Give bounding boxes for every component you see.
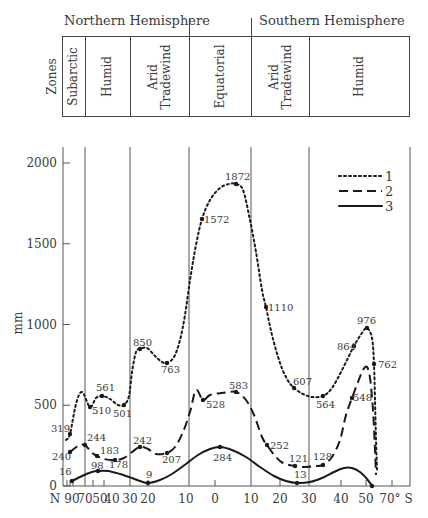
data-point <box>370 484 374 488</box>
x-tick-label: 10 <box>178 492 193 506</box>
data-value-label: 1872 <box>225 171 250 182</box>
data-value-label: 252 <box>270 440 289 451</box>
data-value-label: 244 <box>87 432 106 443</box>
data-point <box>146 481 150 485</box>
x-tick-label: 20 <box>272 492 287 506</box>
data-value-label: 501 <box>113 408 132 419</box>
x-tick-label: N <box>50 492 61 506</box>
data-point <box>293 464 297 468</box>
legend-label-1: 1 <box>385 169 393 184</box>
x-tick-label: 40 <box>333 492 348 506</box>
data-value-label: 183 <box>100 445 119 456</box>
data-value-label: 121 <box>289 453 308 464</box>
data-value-label: 128 <box>313 451 332 462</box>
series-line-1 <box>66 183 377 470</box>
data-point <box>100 394 104 398</box>
data-point <box>95 454 99 458</box>
data-point <box>70 479 74 483</box>
data-value-label: 242 <box>133 435 152 446</box>
x-tick-label: 30 <box>122 492 137 506</box>
data-point <box>234 182 238 186</box>
data-value-label: 548 <box>353 392 372 403</box>
data-value-label: 763 <box>161 364 180 375</box>
data-value-label: 98 <box>91 460 104 471</box>
y-tick-label: 2000 <box>26 156 57 170</box>
data-value-label: 16 <box>59 466 72 477</box>
data-value-label: 583 <box>229 380 248 391</box>
y-axis-label: mm <box>11 311 25 334</box>
data-value-label: 850 <box>133 337 152 348</box>
data-value-label: 762 <box>378 359 397 370</box>
data-value-label: 319 <box>51 423 70 434</box>
x-tick-label: 20 <box>140 492 155 506</box>
data-value-label: 510 <box>92 405 111 416</box>
data-point <box>365 326 369 330</box>
data-value-label: 207 <box>162 454 181 465</box>
x-tick-label: 0 <box>211 492 219 506</box>
x-tick-label: 50 <box>358 492 373 506</box>
data-point <box>321 394 325 398</box>
data-value-label: 864 <box>337 341 356 352</box>
data-value-label: 13 <box>294 469 307 480</box>
legend-label-3: 3 <box>385 199 393 214</box>
data-value-label: 1572 <box>204 214 229 225</box>
data-point <box>265 443 269 447</box>
data-value-label: 561 <box>96 382 115 393</box>
data-point <box>295 481 299 485</box>
x-tick-label: 30 <box>301 492 316 506</box>
data-point <box>372 362 376 366</box>
x-tick-label: 70° S <box>379 492 412 506</box>
data-value-label: 564 <box>316 399 335 410</box>
data-value-label: 1110 <box>268 302 293 313</box>
data-point <box>218 445 222 449</box>
precipitation-chart: 0500100015002000mmN907050403020100102030… <box>0 0 428 518</box>
y-tick-label: 500 <box>34 398 57 412</box>
data-point <box>122 403 126 407</box>
data-point <box>201 398 205 402</box>
legend-label-2: 2 <box>385 184 393 199</box>
x-tick-label: 10 <box>243 492 258 506</box>
legend: 123 <box>339 169 393 214</box>
data-series <box>66 182 377 488</box>
x-tick-label: 70 <box>77 492 92 506</box>
data-labels: 3195105615018507631572187211106075648649… <box>51 171 397 480</box>
x-tick-label: 40 <box>104 492 119 506</box>
y-tick-label: 1000 <box>26 318 57 332</box>
y-tick-label: 1500 <box>26 237 57 251</box>
data-point <box>321 463 325 467</box>
data-value-label: 9 <box>146 469 152 480</box>
y-tick-label: 0 <box>49 479 57 493</box>
data-value-label: 284 <box>213 452 232 463</box>
data-point <box>83 443 87 447</box>
data-value-label: 240 <box>52 451 71 462</box>
data-value-label: 976 <box>357 315 376 326</box>
data-value-label: 607 <box>293 376 312 387</box>
data-value-label: 178 <box>109 459 128 470</box>
data-value-label: 528 <box>206 399 225 410</box>
